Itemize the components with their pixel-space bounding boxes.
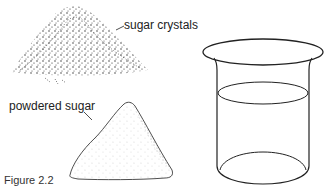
beaker [203, 39, 323, 184]
powdered-sugar-leader-line [84, 112, 92, 120]
powdered-sugar-pile [70, 102, 173, 179]
figure-caption: Figure 2.2 [4, 175, 54, 186]
sugar-crystals-leader-line [116, 26, 124, 30]
sugar-crystals-label: sugar crystals [124, 19, 198, 31]
powdered-sugar-label: powdered sugar [9, 100, 95, 112]
water-surface [218, 82, 308, 104]
